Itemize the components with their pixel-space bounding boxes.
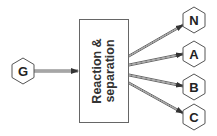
process-label-line1: Reaction &	[90, 38, 104, 103]
process-label-line2: separation	[103, 39, 117, 102]
node-c-label: C	[189, 110, 199, 125]
edge-process-to-n	[129, 24, 183, 57]
process-box: Reaction & separation	[80, 20, 129, 123]
edge-g-to-process	[34, 70, 78, 72]
node-c: C	[183, 104, 205, 130]
node-b: B	[183, 74, 205, 100]
process-diagram: Reaction & separation G N A B	[0, 0, 217, 136]
edge-process-to-b	[129, 74, 183, 87]
node-g-label: G	[18, 64, 28, 79]
edge-process-to-c	[129, 82, 183, 114]
node-b-label: B	[189, 80, 198, 95]
node-a: A	[183, 41, 205, 67]
node-n: N	[183, 7, 205, 33]
node-a-label: A	[189, 47, 199, 62]
edge-process-to-a	[129, 53, 183, 66]
node-n-label: N	[189, 13, 198, 28]
node-g: G	[12, 58, 34, 84]
